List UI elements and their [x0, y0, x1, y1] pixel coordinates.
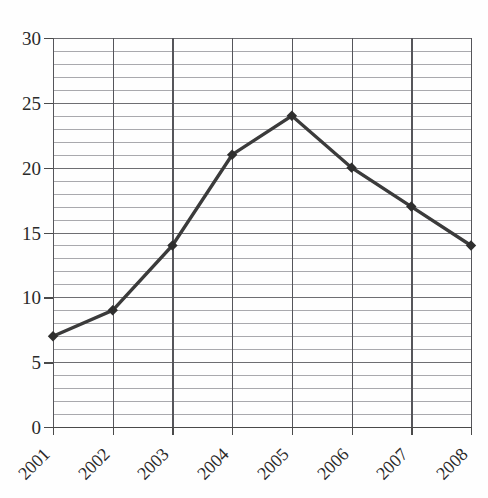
x-tick-2003 [172, 427, 173, 435]
gridline-x-2008 [471, 38, 472, 427]
x-tick-2008 [471, 427, 472, 435]
y-axis-label-15: 15 [0, 223, 41, 242]
y-tick-5 [44, 362, 53, 363]
series-line [53, 116, 471, 336]
x-tick-2005 [292, 427, 293, 435]
x-tick-2004 [232, 427, 233, 435]
x-axis-label-2005: 2005 [236, 444, 293, 498]
x-axis-label-2007: 2007 [355, 444, 412, 498]
x-axis-label-2002: 2002 [57, 444, 114, 498]
y-tick-25 [44, 103, 53, 104]
y-axis-label-25: 25 [0, 93, 41, 112]
gridline-y-0 [53, 427, 471, 428]
y-tick-0 [44, 427, 53, 428]
y-axis-label-0: 0 [0, 418, 41, 437]
x-axis-label-2008: 2008 [415, 444, 472, 498]
y-axis-label-30: 30 [0, 29, 41, 48]
x-axis-label-2006: 2006 [296, 444, 353, 498]
x-tick-2002 [113, 427, 114, 435]
data-point-2001 [48, 331, 58, 341]
line-chart: 051015202530 200120022003200420052006200… [0, 0, 488, 498]
y-axis-label-10: 10 [0, 288, 41, 307]
y-axis-label-5: 5 [0, 353, 41, 372]
data-series [53, 38, 471, 427]
x-axis-label-2004: 2004 [176, 444, 233, 498]
y-tick-30 [44, 38, 53, 39]
y-tick-15 [44, 233, 53, 234]
x-axis-label-2003: 2003 [117, 444, 174, 498]
y-tick-10 [44, 297, 53, 298]
x-tick-2007 [411, 427, 412, 435]
plot-area [53, 38, 471, 427]
x-axis-label-2001: 2001 [0, 444, 54, 498]
x-tick-2006 [352, 427, 353, 435]
y-tick-20 [44, 168, 53, 169]
series-markers [48, 111, 476, 342]
y-axis-label-20: 20 [0, 158, 41, 177]
chart-title [0, 0, 488, 3]
x-tick-2001 [53, 427, 54, 435]
